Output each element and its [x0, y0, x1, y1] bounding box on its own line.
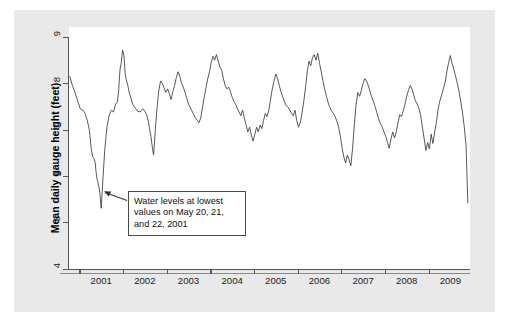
x-tick-2009 [429, 270, 430, 274]
x-tick-2006 [298, 270, 299, 274]
x-tick-label-2004: 2004 [212, 275, 252, 286]
y-tick-8 [63, 83, 68, 84]
figure-root: Mean daily gauge height (feet) 456789 20… [0, 0, 509, 322]
x-axis-spine [68, 269, 470, 270]
x-axis-baseline [60, 273, 470, 274]
x-tick-2002 [123, 270, 124, 274]
x-tick-2008 [385, 270, 386, 274]
x-tick-2003 [167, 270, 168, 274]
x-tick-label-2003: 2003 [169, 275, 209, 286]
x-tick-2001 [79, 270, 80, 274]
annotation-line-2: values on May 20, 21, [134, 207, 240, 218]
y-tick-6 [63, 176, 68, 177]
y-tick-5 [63, 222, 68, 223]
y-tick-label-4: 4 [51, 263, 62, 275]
annotation-callout-box[interactable]: Water levels at lowest values on May 20,… [128, 191, 246, 236]
y-tick-label-7: 7 [51, 124, 62, 136]
x-tick-2005 [254, 270, 255, 274]
y-axis-spine [68, 37, 69, 269]
y-tick-label-8: 8 [51, 77, 62, 89]
x-tick-label-2008: 2008 [387, 275, 427, 286]
x-tick-label-2005: 2005 [256, 275, 296, 286]
x-tick-label-2001: 2001 [81, 275, 121, 286]
y-tick-label-5: 5 [51, 216, 62, 228]
x-tick-label-2002: 2002 [125, 275, 165, 286]
annotation-line-1: Water levels at lowest [134, 196, 240, 207]
x-tick-label-2006: 2006 [299, 275, 339, 286]
x-tick-2004 [210, 270, 211, 274]
y-tick-9 [63, 37, 68, 38]
y-tick-label-6: 6 [51, 170, 62, 182]
y-tick-label-9: 9 [51, 31, 62, 43]
x-tick-2007 [341, 270, 342, 274]
y-tick-7 [63, 130, 68, 131]
y-tick-4 [63, 269, 68, 270]
x-tick-label-2007: 2007 [343, 275, 383, 286]
x-tick-label-2009: 2009 [430, 275, 470, 286]
annotation-line-3: and 22, 2001 [134, 219, 240, 230]
